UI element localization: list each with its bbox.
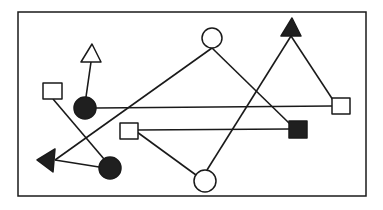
open-square-right-icon xyxy=(332,98,350,114)
open-triangle-top-left-icon xyxy=(81,44,101,62)
open-circle-bottom-icon xyxy=(194,170,216,192)
edge-filled-circle-bottom-left-to-filled-triangle-left xyxy=(55,160,99,167)
edge-open-square-middle-to-open-circle-bottom xyxy=(137,132,196,175)
filled-square-right-icon xyxy=(289,121,307,138)
diagram-frame xyxy=(18,12,366,196)
edge-filled-circle-left-to-open-triangle-top-left xyxy=(86,62,91,97)
edge-filled-triangle-top-right-to-open-square-right xyxy=(291,36,333,100)
filled-triangle-top-right-icon xyxy=(281,18,301,36)
edge-open-circle-top-to-filled-square-right xyxy=(212,48,290,124)
open-circle-top-icon xyxy=(202,28,222,48)
open-square-left-icon xyxy=(43,83,62,99)
diagram-nodes xyxy=(37,18,350,192)
filled-circle-bottom-left-icon xyxy=(99,157,121,179)
open-square-middle-icon xyxy=(120,123,138,139)
diagram-canvas xyxy=(0,0,383,210)
edge-open-square-middle-to-filled-square-right xyxy=(138,129,289,130)
filled-triangle-left-icon xyxy=(37,149,55,172)
filled-circle-left-icon xyxy=(74,97,96,119)
